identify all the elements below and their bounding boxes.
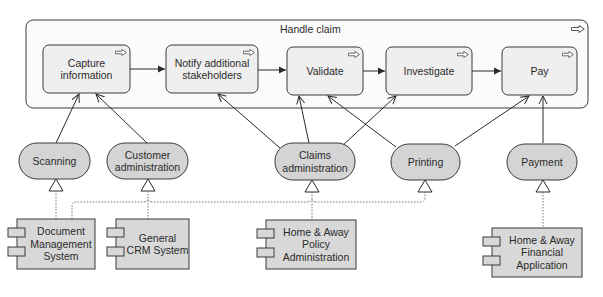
service-label: Printing [391,144,460,180]
component-label: Home & Away Policy Administration [276,220,356,269]
realization-triangles [49,179,550,192]
component-icon [257,248,274,257]
container-title: Handle claim [280,23,341,35]
component-label: General CRM System [126,219,189,269]
component-icon [8,228,25,237]
process-label: Validate [287,47,363,95]
process-label: Pay [502,47,577,95]
process-label: Notify additional stakeholders [170,45,254,93]
service-label: Customer administration [110,143,185,179]
component-label: Document Management System [27,219,95,269]
component-icon [107,247,124,256]
component-icon [483,256,500,265]
process-label: Capture information [43,45,130,93]
component-icon [483,237,500,246]
component-label: Home & Away Financial Application [502,228,582,277]
service-label: Payment [507,144,577,180]
component-icon [107,228,124,237]
process-label: Investigate [386,47,472,95]
service-label: Claims administration [277,143,353,180]
component-icon [257,229,274,238]
service-label: Scanning [19,143,90,179]
component-icon [8,247,25,256]
